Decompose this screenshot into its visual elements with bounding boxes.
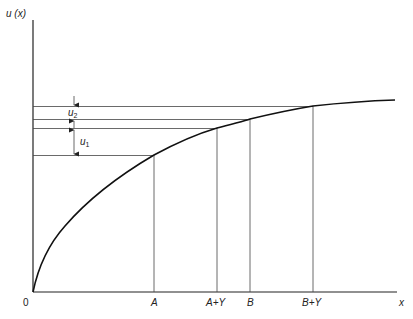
x-label-a: A bbox=[150, 297, 158, 308]
x-axis-label: x bbox=[398, 297, 405, 308]
x-label-b: B bbox=[247, 297, 254, 308]
x-label-b-plus-y: B+Y bbox=[302, 297, 323, 308]
u2-label: u2 bbox=[68, 107, 78, 119]
utility-diagram: u (x) x 0 A A+Y B B+Y u2 u1 bbox=[0, 0, 413, 319]
y-axis-label: u (x) bbox=[6, 8, 26, 19]
origin-label: 0 bbox=[23, 297, 29, 308]
u1-label: u1 bbox=[80, 136, 90, 148]
x-label-a-plus-y: A+Y bbox=[205, 297, 227, 308]
